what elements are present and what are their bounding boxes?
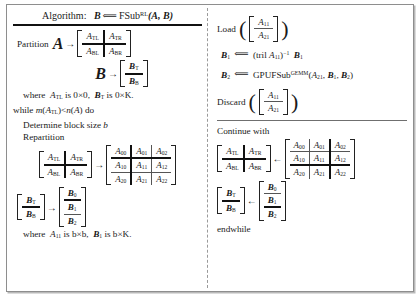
- title-superscript: RL: [140, 10, 148, 17]
- repartition-b-arrow: →: [45, 202, 59, 213]
- title-target: B: [94, 10, 101, 21]
- operation-1: B1 ⟸ (tril A11)−1 B1: [221, 48, 407, 63]
- endwhile-label: endwhile: [217, 224, 407, 235]
- while-line: while m(ATL)<n(A) do: [13, 105, 202, 118]
- discard-row: Discard ( A11 A21 ): [217, 89, 407, 115]
- load-outer-bracket-right: ): [281, 20, 288, 38]
- operation-2: B2 ⟸ GPUFSubGEMM(A21, B1, B2): [221, 68, 407, 83]
- partition-b-symbol: B: [95, 65, 106, 83]
- matrix-b-repartition: B0 B1 B2: [59, 187, 86, 227]
- continue-a-row: ATL ATR ABL ABR ← A00: [217, 139, 407, 179]
- partition-b-row: B → BT BB: [13, 60, 202, 87]
- determine-block-size-line: Determine block size b: [13, 120, 202, 131]
- section-rule: [217, 120, 407, 121]
- title-args: (A, B): [148, 10, 173, 21]
- continue-b-arrow: ←: [245, 195, 259, 206]
- partition-a-arrow: →: [63, 38, 77, 49]
- cell-a-tr: ATR: [104, 30, 126, 43]
- repartition-label: Repartition: [13, 132, 202, 143]
- matrix-b-halves-small: BT BB: [17, 194, 45, 221]
- repartition-a-arrow: →: [92, 159, 106, 170]
- discard-outer-bracket-right: ): [291, 93, 298, 111]
- partition-b-arrow: →: [106, 68, 120, 79]
- cell-b-top: BT: [125, 60, 143, 73]
- partition-label: Partition: [17, 39, 49, 49]
- discard-label: Discard: [217, 97, 246, 107]
- continue-b-row: BT BB ← B0 B1 B2: [217, 181, 407, 221]
- repartition-a-row: ATL ATR ABL ABR → A00: [13, 145, 202, 185]
- matrix-a-repartition: A00 A01 A02 A10 A11 A12 A20 A21 A22: [106, 145, 176, 185]
- partition-a-row: Partition A → ATL ATR ABL ABR: [13, 30, 202, 57]
- left-panel: Algorithm: B⟸FSubRL(A, B) Partition A → …: [7, 5, 207, 291]
- matrix-b-continue: B0 B1 B2: [259, 181, 286, 221]
- title-prefix: Algorithm:: [42, 10, 86, 21]
- matrix-a-quad: ATL ATR ABL ABR: [77, 30, 131, 57]
- cell-a-bl: ABL: [82, 44, 104, 57]
- matrix-b-halves: BT BB: [120, 60, 148, 87]
- right-panel: Load ( A11 A21 ) B1 ⟸ (tril A11)−1 B1: [208, 5, 413, 291]
- title-function: FSub: [119, 10, 140, 21]
- partition-a-symbol: A: [53, 35, 64, 53]
- figure-container: Algorithm: B⟸FSubRL(A, B) Partition A → …: [0, 0, 420, 296]
- where-line-1: where ATL is 0×0, BT is 0×K.: [13, 90, 202, 103]
- where-line-2: where A11 is b×b, B1 is b×K.: [13, 229, 202, 242]
- matrix-a-continue: A00 A01 A02 A10 A11 A12 A20 A21 A22: [285, 139, 355, 179]
- matrix-a-quad-small: ATL ATR ABL ABR: [39, 151, 93, 178]
- repartition-b-row: BT BB → B0 B1 B2: [13, 187, 202, 227]
- load-outer-bracket-left: (: [239, 20, 246, 38]
- title-assign-arrow: ⟸: [101, 10, 119, 21]
- load-row: Load ( A11 A21 ): [217, 16, 407, 42]
- matrix-b-halves-continue: BT BB: [217, 187, 245, 214]
- discard-outer-bracket-left: (: [249, 93, 256, 111]
- algorithm-box: Algorithm: B⟸FSubRL(A, B) Partition A → …: [6, 4, 414, 292]
- cell-a-br: ABR: [104, 44, 126, 57]
- continue-with-label: Continue with: [217, 126, 407, 137]
- matrix-a-quad-continue: ATL ATR ABL ABR: [217, 145, 271, 172]
- continue-a-arrow: ←: [271, 153, 285, 164]
- cell-b-bottom: BB: [125, 74, 143, 87]
- cell-a-tl: ATL: [82, 30, 104, 43]
- matrix-discard-stack: A11 A21: [259, 89, 288, 115]
- matrix-load-stack: A11 A21: [249, 16, 278, 42]
- algorithm-title: Algorithm: B⟸FSubRL(A, B): [13, 8, 202, 23]
- load-label: Load: [217, 24, 236, 34]
- title-rule: [13, 24, 202, 26]
